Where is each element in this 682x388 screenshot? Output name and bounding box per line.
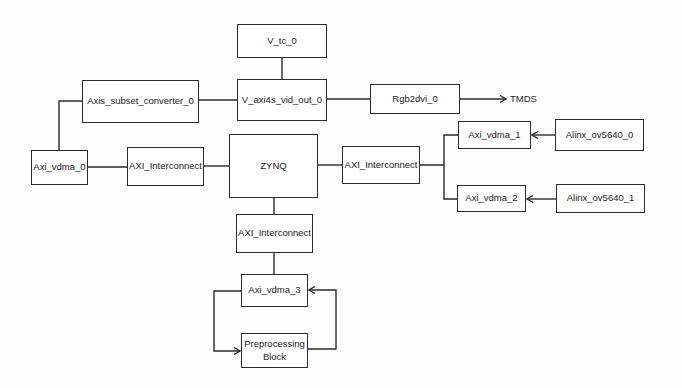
block-label: AXI_Interconnect bbox=[238, 227, 311, 240]
wire-vdma0-to-converter bbox=[59, 101, 82, 150]
wire-preprocessing-to-vdma3 bbox=[308, 290, 336, 349]
block-axi-vdma-0: Axi_vdma_0 bbox=[31, 150, 88, 185]
wire-interconnect-right-to-vdma2 bbox=[444, 165, 457, 199]
block-axi-interconnect-right: AXI_Interconnect bbox=[342, 146, 420, 184]
block-label: Axi_vdma_1 bbox=[468, 129, 520, 142]
block-label: Alinx_ov5640_1 bbox=[567, 192, 635, 205]
block-axi-interconnect-bottom: AXI_Interconnect bbox=[236, 214, 313, 253]
block-axi-interconnect-left: AXI_Interconnect bbox=[127, 147, 204, 186]
tmds-output-label: TMDS bbox=[510, 93, 537, 104]
block-label: V_tc_0 bbox=[267, 35, 297, 48]
block-label: AXI_Interconnect bbox=[345, 159, 418, 172]
block-label: Preprocessing Block bbox=[244, 338, 305, 364]
block-label: Axis_subset_converter_0 bbox=[87, 95, 194, 108]
wire-interconnect-right-to-vdma1 bbox=[420, 135, 458, 165]
block-axi-vdma-1: Axi_vdma_1 bbox=[458, 121, 531, 149]
block-label: Axi_vdma_3 bbox=[248, 284, 300, 297]
block-label: ZYNQ bbox=[260, 160, 286, 173]
block-preprocessing: Preprocessing Block bbox=[241, 333, 308, 368]
block-v-tc-0: V_tc_0 bbox=[237, 24, 327, 58]
block-alinx-ov5640-0: Alinx_ov5640_0 bbox=[555, 119, 644, 151]
block-v-axi4s-vid-out-0: V_axi4s_vid_out_0 bbox=[237, 79, 327, 121]
block-label: Axi_vdma_2 bbox=[465, 192, 517, 205]
block-diagram: V_tc_0 V_axi4s_vid_out_0 Axis_subset_con… bbox=[0, 0, 682, 388]
block-label: Rgb2dvi_0 bbox=[392, 93, 437, 106]
block-axi-vdma-3: Axi_vdma_3 bbox=[241, 274, 308, 307]
block-zynq: ZYNQ bbox=[229, 134, 318, 198]
block-alinx-ov5640-1: Alinx_ov5640_1 bbox=[556, 184, 645, 213]
block-label: AXI_Interconnect bbox=[129, 160, 202, 173]
block-label: V_axi4s_vid_out_0 bbox=[242, 94, 322, 107]
block-axis-subset-converter-0: Axis_subset_converter_0 bbox=[82, 80, 199, 123]
block-label: Alinx_ov5640_0 bbox=[566, 129, 634, 142]
block-axi-vdma-2: Axi_vdma_2 bbox=[457, 185, 526, 212]
wire-vdma3-to-preprocessing bbox=[214, 291, 241, 351]
block-label: Axi_vdma_0 bbox=[33, 161, 85, 174]
block-rgb2dvi-0: Rgb2dvi_0 bbox=[370, 84, 460, 114]
